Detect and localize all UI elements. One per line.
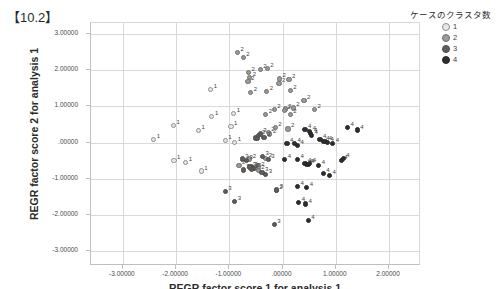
legend-swatch-icon [442, 23, 450, 31]
y-tick-label: 2.00000 [18, 65, 78, 72]
gridline-vertical [229, 23, 230, 264]
data-point [284, 141, 289, 146]
x-tick-mark [228, 265, 229, 269]
data-point-label: 2 [240, 46, 243, 52]
data-point [288, 112, 293, 117]
data-point-label: 3 [269, 168, 272, 174]
data-point-label: 2 [293, 84, 296, 90]
data-point-label: 1 [214, 83, 217, 89]
x-tick-label: .00000 [252, 270, 312, 277]
data-point-label: 4 [360, 124, 363, 130]
data-point-label: 4 [314, 129, 317, 135]
x-tick-mark [282, 265, 283, 269]
data-point-label: 2 [254, 86, 257, 92]
legend-item-3[interactable]: 3 [442, 44, 502, 53]
data-point [241, 55, 246, 60]
x-tick-mark [122, 265, 123, 269]
gridline-horizontal [91, 143, 419, 144]
data-point-label: 2 [293, 108, 296, 114]
data-point [276, 81, 281, 86]
data-point-label: 1 [202, 124, 205, 130]
data-point [286, 77, 291, 82]
legend-items: 1234 [408, 22, 502, 64]
data-point [285, 126, 290, 131]
data-point-label: 2 [270, 62, 273, 68]
y-tick-mark [86, 105, 90, 106]
legend-swatch-icon [442, 56, 450, 64]
data-point-label: 3 [271, 153, 274, 159]
data-point-label: 4 [309, 198, 312, 204]
data-point-label: 1 [204, 165, 207, 171]
data-point-label: 3 [228, 185, 231, 191]
gridline-horizontal [91, 179, 419, 180]
data-point-label: 2 [296, 101, 299, 107]
data-point-label: 4 [313, 157, 316, 163]
data-point-label: 3 [280, 183, 283, 189]
y-tick-mark [86, 69, 90, 70]
y-tick-mark [86, 250, 90, 251]
legend-item-label: 4 [453, 55, 457, 64]
data-point-label: 4 [311, 214, 314, 220]
data-point-label: 4 [308, 123, 311, 129]
data-point [258, 67, 263, 72]
data-point-label: 1 [177, 154, 180, 160]
data-point-label: 3 [267, 131, 270, 137]
gridline-horizontal [91, 251, 419, 252]
data-point-label: 4 [333, 169, 336, 175]
gridline-vertical [123, 23, 124, 264]
gridline-vertical [176, 23, 177, 264]
data-point-label: 2 [253, 71, 256, 77]
data-point-label: 1 [234, 120, 237, 126]
data-point [292, 141, 297, 146]
data-point-label: 2 [291, 122, 294, 128]
plot-area [90, 22, 420, 265]
legend-swatch-icon [442, 45, 450, 53]
data-point [228, 124, 233, 129]
x-tick-label: -2.00000 [145, 270, 205, 277]
x-tick-label: 1.00000 [305, 270, 365, 277]
y-tick-label: .00000 [18, 138, 78, 145]
legend-title: ケースのクラスタ数 [410, 8, 502, 20]
gridline-horizontal [91, 106, 419, 107]
data-point-label: 4 [346, 152, 349, 158]
data-point-label: 3 [265, 150, 268, 156]
data-point-label: 2 [270, 85, 273, 91]
gridline-horizontal [91, 215, 419, 216]
data-point-label: 4 [297, 137, 300, 143]
data-point-label: 2 [278, 121, 281, 127]
data-point-label: 4 [351, 121, 354, 127]
data-point [235, 50, 240, 55]
x-tick-mark [335, 265, 336, 269]
data-point-label: 1 [237, 107, 240, 113]
legend: ケースのクラスタ数 1234 [408, 8, 502, 64]
data-point-label: 4 [322, 159, 325, 165]
data-point-label: 4 [301, 153, 304, 159]
data-point-label: 1 [189, 156, 192, 162]
data-point [327, 173, 332, 178]
data-point-label: 3 [238, 195, 241, 201]
legend-item-2[interactable]: 2 [442, 33, 502, 42]
legend-item-label: 2 [453, 33, 457, 42]
y-tick-label: -1.00000 [18, 174, 78, 181]
data-point [199, 168, 204, 173]
data-point [306, 218, 311, 223]
scatter-plot-figure: 【10.2】 REGR factor score 2 for analysis … [0, 0, 502, 289]
y-tick-mark [86, 178, 90, 179]
legend-item-4[interactable]: 4 [442, 55, 502, 64]
gridline-vertical [336, 23, 337, 264]
y-tick-mark [86, 214, 90, 215]
data-point [321, 171, 326, 176]
data-point-label: 4 [301, 139, 304, 145]
legend-item-label: 3 [453, 44, 457, 53]
data-point [223, 138, 228, 143]
data-point [247, 164, 252, 169]
data-point-label: 3 [277, 218, 280, 224]
data-point [303, 201, 308, 206]
data-point-label: 4 [336, 137, 339, 143]
legend-item-1[interactable]: 1 [442, 22, 502, 31]
data-point [341, 156, 346, 161]
data-point-label: 1 [228, 134, 231, 140]
data-point-label: 1 [157, 133, 160, 139]
y-tick-label: -3.00000 [18, 246, 78, 253]
data-point-label: 2 [253, 153, 256, 159]
